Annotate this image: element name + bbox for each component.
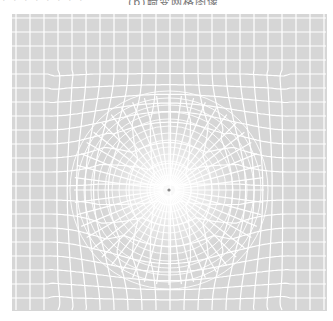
center-point xyxy=(167,188,170,191)
distorted-grid-image xyxy=(0,0,333,321)
